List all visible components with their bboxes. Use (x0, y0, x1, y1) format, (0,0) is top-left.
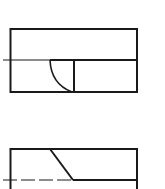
drawing-svg (0, 0, 165, 189)
technical-drawing (0, 0, 165, 189)
front-view (3, 149, 137, 189)
top-view (3, 29, 137, 92)
front-view-outline (11, 149, 138, 189)
top-view-arc (50, 60, 72, 92)
front-view-diagonal (50, 149, 73, 180)
